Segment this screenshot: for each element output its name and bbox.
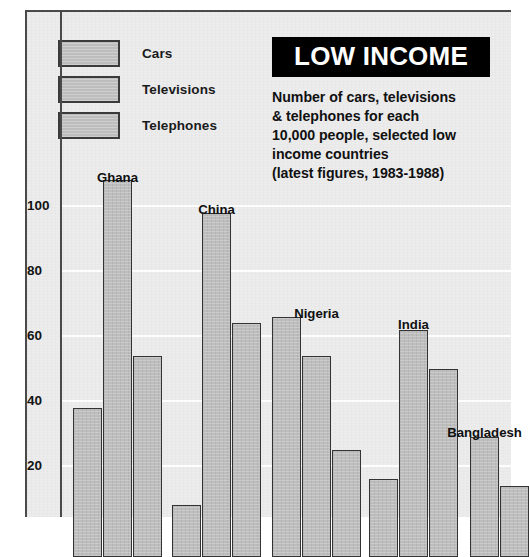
bar-bangladesh-telephones bbox=[500, 486, 529, 557]
bar-bangladesh-televisions bbox=[470, 437, 499, 557]
country-label-bangladesh: Bangladesh bbox=[447, 425, 522, 440]
bar-group-bangladesh: Bangladesh bbox=[27, 10, 511, 517]
plot-area: 10080604020 GhanaChinaNigeriaIndiaBangla… bbox=[27, 10, 511, 517]
